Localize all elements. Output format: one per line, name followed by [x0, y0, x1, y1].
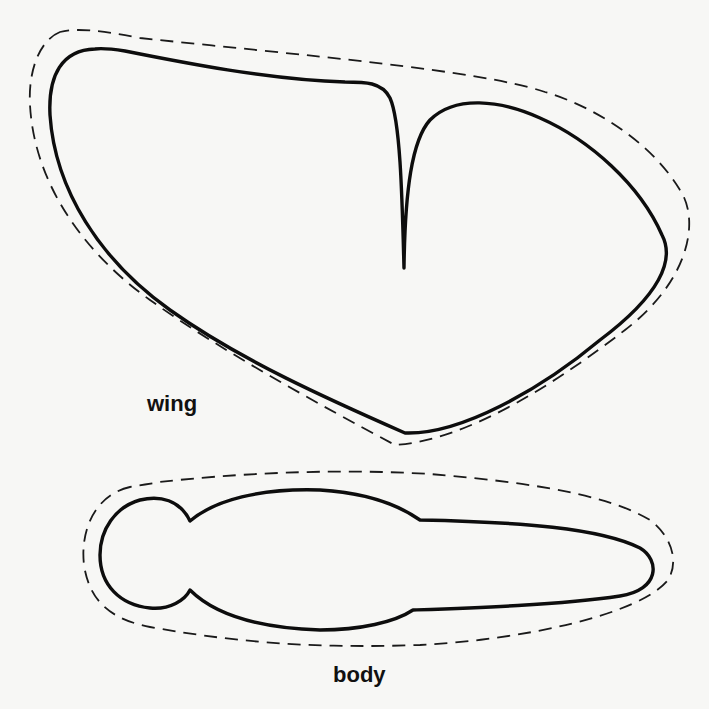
wing-label: wing [147, 393, 197, 415]
body-outline [100, 490, 653, 630]
body-label: body [333, 664, 386, 686]
wing-dashed-outline [30, 30, 689, 445]
pattern-diagram [0, 0, 709, 709]
body-dashed-outline [83, 472, 673, 646]
wing-outline [50, 49, 667, 433]
